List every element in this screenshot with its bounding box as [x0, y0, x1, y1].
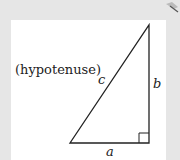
triangle-outline [70, 25, 149, 143]
label-a: a [106, 144, 114, 159]
label-c: c [98, 72, 105, 87]
label-b: b [153, 76, 161, 91]
pencil-icon [164, 0, 180, 14]
hypotenuse-note: (hypotenuse) [15, 62, 101, 77]
right-angle-marker [139, 133, 149, 143]
